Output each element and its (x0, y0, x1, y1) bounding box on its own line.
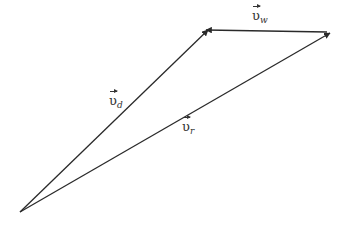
vector-v-d-label: υd (109, 94, 123, 110)
vector-v-r-line (20, 33, 330, 212)
v-r-symbol: υ (182, 120, 190, 133)
v-d-symbol: υ (109, 94, 117, 107)
vector-diagram (0, 0, 342, 226)
v-w-symbol: υ (252, 9, 260, 22)
v-r-subscript: r (190, 126, 194, 136)
vector-v-d-line (20, 30, 208, 212)
vector-v-w-line (206, 30, 327, 32)
v-w-subscript: w (260, 15, 268, 25)
vector-v-w-label: υw (252, 9, 268, 25)
v-d-subscript: d (117, 100, 123, 110)
vector-v-r-label: υr (182, 120, 194, 136)
